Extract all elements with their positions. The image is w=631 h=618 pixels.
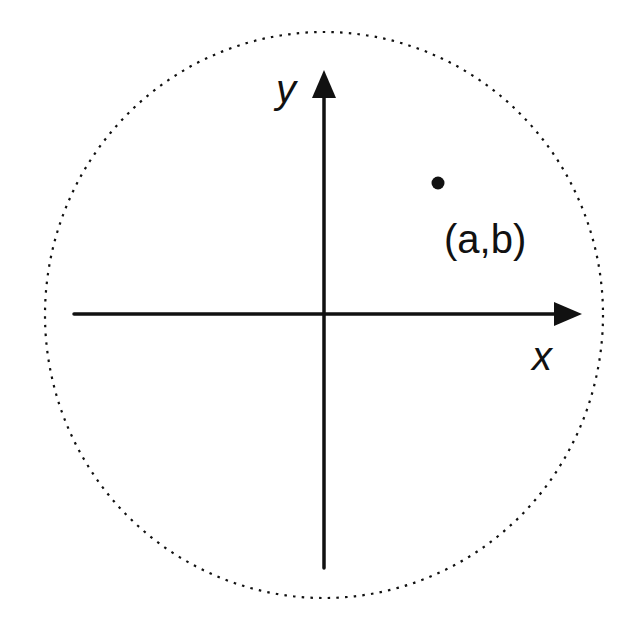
point-label: (a,b) [444,217,526,261]
point-marker-icon [432,177,445,190]
x-axis-label: x [530,334,554,378]
y-axis-label: y [273,67,299,111]
coordinate-diagram: x y (a,b) [0,0,631,618]
